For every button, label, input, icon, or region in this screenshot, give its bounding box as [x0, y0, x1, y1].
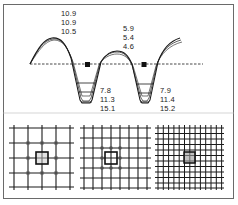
- well2-value-1: 7.9: [160, 86, 175, 95]
- fine-grid-highlight-box: [184, 152, 195, 163]
- peak1-labels: 10.9 10.9 10.5: [61, 9, 76, 36]
- well2-labels: 7.9 11.4 15.2: [160, 86, 175, 113]
- figure-canvas: [0, 0, 238, 205]
- peak1-value-3: 10.5: [61, 27, 76, 36]
- peak2-value-2: 5.4: [123, 33, 134, 42]
- medium-grid: [80, 125, 151, 190]
- well2-value-2: 11.4: [160, 95, 175, 104]
- well2-value-3: 15.2: [160, 104, 175, 113]
- peak2-labels: 5.9 5.4 4.6: [123, 24, 134, 51]
- square-marker-1: [85, 62, 90, 67]
- square-marker-2: [142, 62, 147, 67]
- well1-labels: 7.8 11.3 15.1: [100, 86, 115, 113]
- peak2-value-3: 4.6: [123, 42, 134, 51]
- well1-value-3: 15.1: [100, 104, 115, 113]
- peak1-value-2: 10.9: [61, 18, 76, 27]
- coarse-grid-highlight-box: [36, 152, 48, 164]
- well1-value-2: 11.3: [100, 95, 115, 104]
- well1-value-1: 7.8: [100, 86, 115, 95]
- peak1-value-1: 10.9: [61, 9, 76, 18]
- peak2-value-1: 5.9: [123, 24, 134, 33]
